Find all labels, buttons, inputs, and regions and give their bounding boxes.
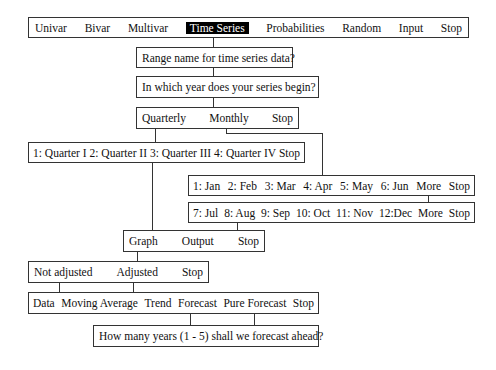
menu-item-stop[interactable]: Stop: [293, 297, 314, 309]
connector-line: [428, 195, 429, 202]
output-menu: Graph Output Stop: [123, 230, 265, 252]
menu-item-random[interactable]: Random: [342, 22, 381, 34]
menu-item-data[interactable]: Data: [33, 297, 55, 309]
menu-item-forecast[interactable]: Forecast: [178, 297, 217, 309]
frequency-menu: Quarterly Monthly Stop: [136, 107, 299, 129]
menu-item-stop[interactable]: Stop: [279, 147, 300, 159]
connector-line: [59, 282, 60, 292]
menu-item-sep[interactable]: 9: Sep: [261, 207, 290, 219]
menu-item-quarter-3[interactable]: 3: Quarter III: [150, 147, 211, 159]
range-name-prompt-text: Range name for time series data?: [142, 52, 295, 64]
series-menu: Data Moving Average Trend Forecast Pure …: [28, 292, 319, 314]
menu-item-stop[interactable]: Stop: [238, 235, 259, 247]
menu-item-mar[interactable]: 3: Mar: [265, 180, 296, 192]
start-year-prompt-text: In which year does your series begin?: [142, 81, 316, 93]
connector-line: [137, 251, 138, 261]
menu-item-input[interactable]: Input: [399, 22, 423, 34]
menu-item-feb[interactable]: 2: Feb: [228, 180, 257, 192]
menu-item-stop[interactable]: Stop: [449, 180, 470, 192]
menu-item-aug[interactable]: 8: Aug: [224, 207, 255, 219]
adjust-menu: Not adjusted Adjusted Stop: [28, 261, 209, 283]
connector-line: [213, 97, 214, 107]
menu-item-stop[interactable]: Stop: [449, 207, 470, 219]
menu-item-jan[interactable]: 1: Jan: [193, 180, 220, 192]
connector-line: [213, 37, 214, 47]
connector-line: [226, 133, 323, 134]
month-menu-2: 7: Jul 8: Aug 9: Sep 10: Oct 11: Nov 12:…: [188, 202, 475, 223]
menu-item-monthly[interactable]: Monthly: [209, 112, 249, 124]
menu-item-pure-forecast[interactable]: Pure Forecast: [223, 297, 286, 309]
connector-line: [322, 133, 323, 175]
menu-item-multivar[interactable]: Multivar: [128, 22, 168, 34]
menu-item-nov[interactable]: 11: Nov: [336, 207, 373, 219]
start-year-prompt[interactable]: In which year does your series begin?: [136, 76, 319, 98]
menu-item-more[interactable]: More: [418, 207, 443, 219]
menu-item-dec[interactable]: 12:Dec: [379, 207, 412, 219]
connector-line: [213, 67, 214, 76]
menu-item-quarterly[interactable]: Quarterly: [142, 112, 186, 124]
menu-item-probabilities[interactable]: Probabilities: [266, 22, 324, 34]
menu-item-graph[interactable]: Graph: [129, 235, 158, 247]
connector-line: [190, 313, 191, 325]
menu-item-stop[interactable]: Stop: [182, 266, 203, 278]
connector-line: [254, 313, 255, 325]
forecast-years-prompt-text: How many years (1 - 5) shall we forecast…: [99, 330, 323, 342]
menu-item-jul[interactable]: 7: Jul: [193, 207, 218, 219]
menu-item-adjusted[interactable]: Adjusted: [116, 266, 158, 278]
quarter-menu: 1: Quarter I 2: Quarter II 3: Quarter II…: [28, 142, 305, 163]
connector-line: [237, 222, 238, 230]
connector-line: [133, 282, 134, 292]
menu-item-quarter-2[interactable]: 2: Quarter II: [90, 147, 147, 159]
menu-item-quarter-1[interactable]: 1: Quarter I: [33, 147, 87, 159]
menu-item-stop[interactable]: Stop: [441, 22, 462, 34]
connector-line: [155, 128, 156, 142]
range-name-prompt[interactable]: Range name for time series data?: [136, 47, 293, 68]
month-menu-1: 1: Jan 2: Feb 3: Mar 4: Apr 5: May 6: Ju…: [188, 175, 475, 196]
connector-line: [152, 162, 153, 230]
menu-item-time-series[interactable]: Time Series: [186, 22, 249, 34]
forecast-years-prompt[interactable]: How many years (1 - 5) shall we forecast…: [93, 325, 319, 347]
menu-item-stop[interactable]: Stop: [272, 112, 293, 124]
menu-item-not-adjusted[interactable]: Not adjusted: [34, 266, 92, 278]
main-menu-bar: Univar Bivar Multivar Time Series Probab…: [28, 17, 469, 38]
menu-item-jun[interactable]: 6: Jun: [381, 180, 409, 192]
menu-item-may[interactable]: 5: May: [340, 180, 373, 192]
menu-item-univar[interactable]: Univar: [35, 22, 67, 34]
menu-item-apr[interactable]: 4: Apr: [303, 180, 332, 192]
menu-item-trend[interactable]: Trend: [144, 297, 171, 309]
menu-item-more[interactable]: More: [416, 180, 441, 192]
menu-item-bivar[interactable]: Bivar: [85, 22, 111, 34]
menu-item-output[interactable]: Output: [182, 235, 214, 247]
menu-item-quarter-4[interactable]: 4: Quarter IV: [214, 147, 276, 159]
menu-item-oct[interactable]: 10: Oct: [296, 207, 330, 219]
menu-item-moving-average[interactable]: Moving Average: [61, 297, 138, 309]
